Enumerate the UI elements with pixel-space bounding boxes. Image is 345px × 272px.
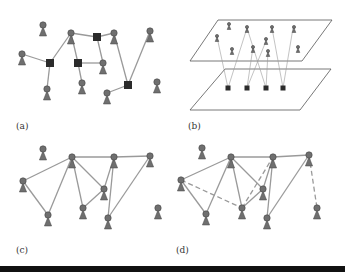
person-icon	[44, 212, 51, 226]
square-node-icon	[74, 59, 82, 67]
person-icon	[198, 145, 205, 159]
edge-line	[247, 41, 266, 88]
person-head-icon	[264, 37, 267, 40]
person-icon	[39, 146, 46, 160]
small-person-icon	[215, 34, 219, 41]
person-head-icon	[227, 22, 230, 25]
edge-line	[228, 28, 247, 88]
edge-line	[23, 181, 48, 215]
person-head-icon	[230, 47, 233, 50]
square-node-icon	[93, 33, 101, 41]
person-head-icon	[101, 186, 107, 192]
network-figure	[0, 0, 345, 272]
person-icon	[18, 51, 25, 65]
edge-line	[206, 157, 231, 214]
edge-line	[272, 28, 283, 88]
square-node-icon	[124, 81, 132, 89]
person-head-icon	[111, 30, 117, 36]
person-icon	[43, 86, 50, 100]
person-head-icon	[245, 25, 248, 28]
person-icon	[263, 215, 270, 229]
panel-label-d: (d)	[176, 245, 189, 255]
person-icon	[39, 22, 46, 36]
panel-label-a: (a)	[16, 121, 28, 131]
person-icon	[100, 186, 107, 200]
person-icon	[110, 30, 117, 44]
person-head-icon	[266, 49, 269, 52]
person-icon	[110, 154, 117, 168]
person-icon	[227, 154, 234, 168]
edge-line	[23, 157, 72, 181]
edge-line	[273, 155, 309, 157]
small-person-icon	[230, 47, 234, 54]
small-person-icon	[296, 45, 300, 52]
person-head-icon	[20, 178, 26, 184]
person-head-icon	[40, 22, 46, 28]
person-icon	[99, 60, 106, 74]
person-icon	[259, 186, 266, 200]
nodes-layer	[18, 22, 320, 229]
edge-line	[50, 33, 71, 63]
person-head-icon	[306, 152, 312, 158]
person-head-icon	[104, 90, 110, 96]
square-node-icon	[46, 59, 54, 67]
person-head-icon	[260, 186, 266, 192]
person-head-icon	[270, 25, 273, 28]
person-head-icon	[154, 79, 160, 85]
edge-line	[247, 47, 253, 88]
edge-line	[247, 28, 266, 88]
person-head-icon	[79, 80, 85, 86]
square-node-icon	[226, 86, 231, 91]
small-person-icon	[264, 37, 268, 44]
person-head-icon	[100, 60, 106, 66]
person-head-icon	[228, 154, 234, 160]
person-icon	[269, 154, 276, 168]
person-head-icon	[292, 25, 295, 28]
square-node-icon	[245, 86, 250, 91]
person-icon	[238, 205, 245, 219]
edge-line	[231, 157, 263, 189]
person-head-icon	[215, 34, 218, 37]
layer-plane-1	[190, 69, 331, 110]
person-head-icon	[155, 205, 161, 211]
square-node-icon	[264, 86, 269, 91]
person-head-icon	[178, 177, 184, 183]
planes-layer	[190, 20, 332, 110]
person-icon	[153, 79, 160, 93]
person-head-icon	[111, 154, 117, 160]
person-head-icon	[19, 51, 25, 57]
person-head-icon	[147, 153, 153, 159]
person-icon	[79, 205, 86, 219]
person-head-icon	[105, 215, 111, 221]
small-person-icon	[227, 22, 231, 29]
person-head-icon	[69, 154, 75, 160]
person-head-icon	[264, 215, 270, 221]
person-head-icon	[199, 145, 205, 151]
edge-line	[181, 180, 206, 214]
person-head-icon	[251, 45, 254, 48]
person-icon	[104, 215, 111, 229]
person-head-icon	[270, 154, 276, 160]
edges-layer	[22, 28, 317, 218]
person-head-icon	[203, 211, 209, 217]
edge-line	[283, 28, 293, 88]
edge-line	[72, 157, 104, 189]
bottom-divider-bar	[0, 266, 345, 272]
edge-line	[114, 156, 150, 157]
person-head-icon	[40, 146, 46, 152]
person-head-icon	[147, 28, 153, 34]
square-node-icon	[281, 86, 286, 91]
panel-label-c: (c)	[16, 245, 28, 255]
person-head-icon	[44, 86, 50, 92]
person-icon	[78, 80, 85, 94]
person-head-icon	[239, 205, 245, 211]
small-person-icon	[245, 25, 249, 32]
edge-line	[48, 157, 72, 215]
person-icon	[68, 154, 75, 168]
person-head-icon	[314, 205, 320, 211]
person-icon	[146, 28, 153, 42]
edge-line	[217, 37, 228, 88]
person-head-icon	[68, 30, 74, 36]
small-person-icon	[270, 25, 274, 32]
person-head-icon	[45, 212, 51, 218]
